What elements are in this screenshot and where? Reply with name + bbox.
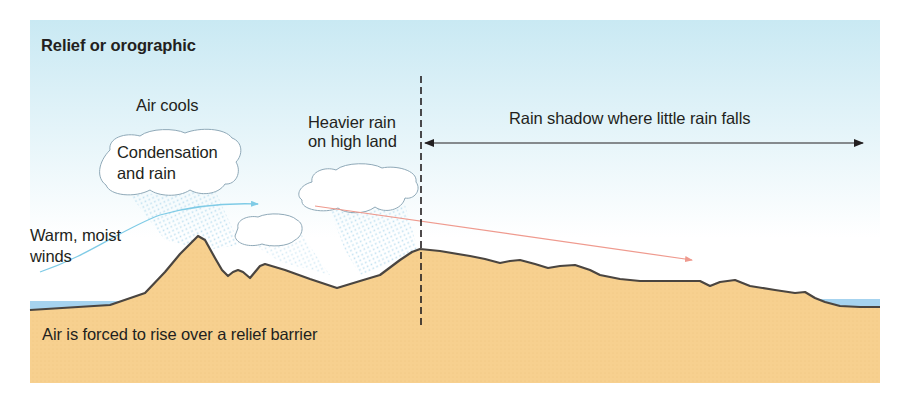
label-rain-shadow: Rain shadow where little rain falls	[509, 108, 750, 128]
label-warm-moist-line2: winds	[30, 246, 72, 266]
label-forced-to-rise: Air is forced to rise over a relief barr…	[42, 324, 317, 344]
orographic-rainfall-diagram: Relief or orographic Air cools Condensat…	[0, 0, 910, 401]
label-heavier-rain-line2: on high land	[308, 131, 397, 151]
label-air-cools: Air cools	[136, 95, 198, 115]
cloud-small	[235, 214, 302, 246]
label-condensation-line1: Condensation	[117, 142, 218, 162]
diagram-title: Relief or orographic	[41, 35, 196, 55]
label-condensation-line2: and rain	[117, 163, 176, 183]
label-heavier-rain-line1: Heavier rain	[308, 112, 396, 132]
label-warm-moist-line1: Warm, moist	[30, 225, 121, 245]
